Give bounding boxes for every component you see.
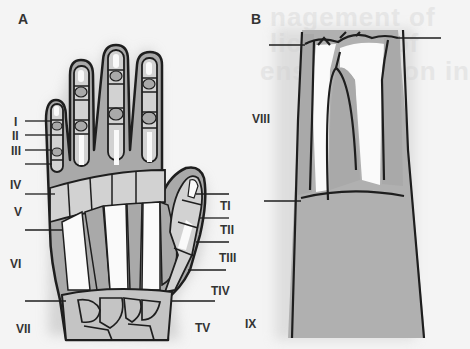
- panel-b-forearm: B VIII IX: [245, 11, 441, 340]
- panel-a-hand: A I II III IV V VI VII TI TII TIII TIV T…: [10, 11, 236, 340]
- zone-label-vi: VI: [10, 257, 21, 271]
- zone-label-ii: II: [12, 129, 19, 143]
- zone-label-v: V: [14, 205, 22, 219]
- panel-b-label: B: [251, 11, 261, 27]
- zone-label-vii: VII: [16, 322, 31, 336]
- panel-a-label: A: [18, 11, 28, 27]
- zone-label-viii: VIII: [252, 112, 270, 126]
- zone-label-i: I: [14, 115, 17, 129]
- zone-label-tiii: TIII: [219, 251, 236, 265]
- zone-label-tv: TV: [195, 321, 210, 335]
- zone-label-tii: TII: [220, 223, 234, 237]
- zone-label-iii: III: [11, 144, 21, 158]
- zone-label-ti: TI: [220, 199, 231, 213]
- zone-label-iv: IV: [10, 178, 21, 192]
- zone-label-ix: IX: [245, 317, 256, 331]
- zone-label-tiv: TIV: [211, 284, 230, 298]
